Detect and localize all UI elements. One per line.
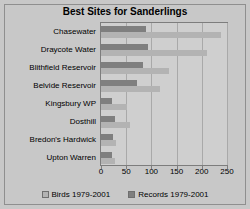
legend-item-records: Records 1979-2001 [128,190,208,199]
bar-birds [101,158,115,164]
gridline [227,23,228,165]
x-tick-mark [202,166,203,169]
category-label: Belvide Reservoir [0,76,96,94]
x-tick-mark [151,166,152,169]
chart-legend: Birds 1979-2001 Records 1979-2001 [0,187,250,201]
bar-birds [101,140,116,146]
category-label: Chasewater [0,22,96,40]
bar-birds [101,32,221,38]
chart-title: Best Sites for Sanderlings [0,6,250,17]
bar-birds [101,50,207,56]
category-label: Draycote Water [0,40,96,58]
x-tick-mark [177,166,178,169]
category-axis-labels: ChasewaterDraycote WaterBlithfield Reser… [0,22,98,166]
x-tick-mark [101,166,102,169]
legend-label-birds: Birds 1979-2001 [52,190,111,199]
bar-birds [101,86,160,92]
category-label: Kingsbury WP [0,94,96,112]
bar-birds [101,68,169,74]
chart-container: Best Sites for Sanderlings ChasewaterDra… [0,0,250,209]
legend-swatch-records-icon [128,191,135,198]
legend-swatch-birds-icon [42,191,49,198]
value-axis-ticks: 050100150200250 [0,167,250,179]
x-tick-mark [126,166,127,169]
category-label: Upton Warren [0,148,96,166]
bar-birds [101,104,127,110]
legend-item-birds: Birds 1979-2001 [42,190,111,199]
bar-birds [101,122,130,128]
legend-label-records: Records 1979-2001 [138,190,208,199]
bars-layer [101,23,227,165]
x-tick-mark [227,166,228,169]
category-label: Dosthill [0,112,96,130]
category-label: Bredon's Hardwick [0,130,96,148]
category-label: Blithfield Reservoir [0,58,96,76]
